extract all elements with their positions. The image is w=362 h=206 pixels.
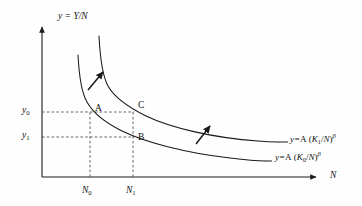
production-function-figure: y = Y/N N y0 y1 N0 N1 A B C y=A (K1/N)β … xyxy=(0,0,362,206)
n0-sub: 0 xyxy=(88,189,91,196)
lower-k: K xyxy=(297,152,303,162)
shift-arrow-left-icon xyxy=(88,72,103,90)
lower-k-sub: 0 xyxy=(303,156,306,163)
upper-k-sub: 1 xyxy=(318,138,321,145)
lower-fn: A xyxy=(285,152,292,162)
y-axis-title: y = Y/N xyxy=(58,12,88,22)
x-tick-label-n0: N0 xyxy=(82,186,92,196)
curve-lower-k0 xyxy=(78,55,265,161)
lower-exp: β xyxy=(318,150,321,157)
point-label-a: A xyxy=(95,104,102,114)
x-tick-label-n1: N1 xyxy=(126,186,136,196)
point-label-b: B xyxy=(138,133,144,143)
y-tick-label-y1: y1 xyxy=(22,131,30,141)
chart-canvas xyxy=(0,0,362,206)
curve-label-lower-k0: y=A (K0/N)β xyxy=(275,153,321,162)
y-tick-label-y0: y0 xyxy=(22,106,30,116)
upper-exp: β xyxy=(333,132,336,139)
upper-k: K xyxy=(312,134,318,144)
n1-sub: 1 xyxy=(132,189,135,196)
point-label-c: C xyxy=(138,101,144,111)
x-axis-title: N xyxy=(330,171,336,181)
y1-sub: 1 xyxy=(26,134,29,141)
curve-label-upper-k1: y=A (K1/N)β xyxy=(290,135,336,144)
upper-fn: A xyxy=(300,134,307,144)
y0-sub: 0 xyxy=(26,109,29,116)
curve-upper-k1 xyxy=(99,36,278,142)
